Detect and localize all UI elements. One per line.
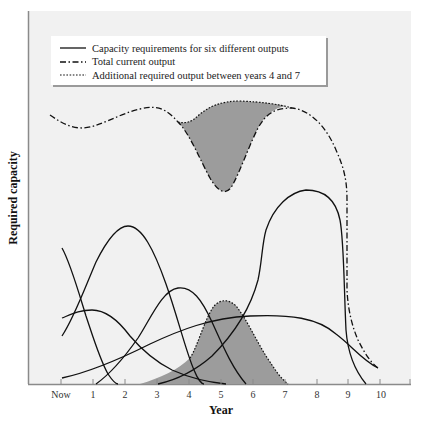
x-tick-9: 9 <box>346 389 351 400</box>
legend-label-capacity: Capacity requirements for six different … <box>92 43 289 54</box>
x-tick-8: 8 <box>315 389 320 400</box>
chart: Now 1 2 3 4 5 6 7 8 9 10 Year Required c… <box>0 0 421 424</box>
x-tick-3: 3 <box>155 389 160 400</box>
x-axis-title: Year <box>209 403 234 417</box>
legend-label-additional-output: Additional required output between years… <box>92 70 300 81</box>
y-axis-title: Required capacity <box>6 151 20 244</box>
legend: Capacity requirements for six different … <box>51 36 328 87</box>
legend-label-total-output: Total current output <box>92 56 175 67</box>
x-tick-2: 2 <box>123 389 128 400</box>
x-tick-6: 6 <box>251 389 256 400</box>
x-tick-7: 7 <box>283 389 288 400</box>
x-tick-labels: Now 1 2 3 4 5 6 7 8 9 10 <box>51 389 386 400</box>
x-tick-4: 4 <box>187 389 192 400</box>
x-tick-now: Now <box>51 389 71 400</box>
x-tick-10: 10 <box>376 389 386 400</box>
x-tick-1: 1 <box>91 389 96 400</box>
x-tick-5: 5 <box>219 389 224 400</box>
